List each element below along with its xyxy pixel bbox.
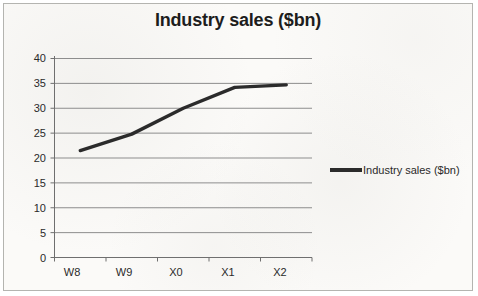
y-axis-ticks-group <box>51 59 55 258</box>
plot-area <box>4 4 474 292</box>
legend-color-swatch <box>330 168 362 172</box>
data-series-line <box>80 85 286 151</box>
legend: Industry sales ($bn) <box>330 164 460 176</box>
x-axis-ticks-group <box>55 258 313 262</box>
legend-item-label: Industry sales ($bn) <box>363 164 460 176</box>
chart-container: Industry sales ($bn) 40 35 30 25 20 15 1… <box>3 3 473 291</box>
